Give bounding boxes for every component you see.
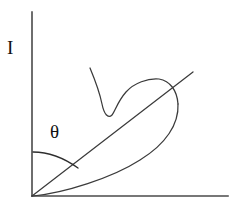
polar-intensity-diagram [0, 0, 240, 206]
lobe-upper-boundary-path [90, 68, 178, 116]
theta-angle-label: θ [50, 122, 59, 141]
figure-container: I θ [0, 0, 240, 206]
lobe-lower-boundary-path [33, 104, 178, 196]
y-axis-label: I [7, 38, 13, 57]
